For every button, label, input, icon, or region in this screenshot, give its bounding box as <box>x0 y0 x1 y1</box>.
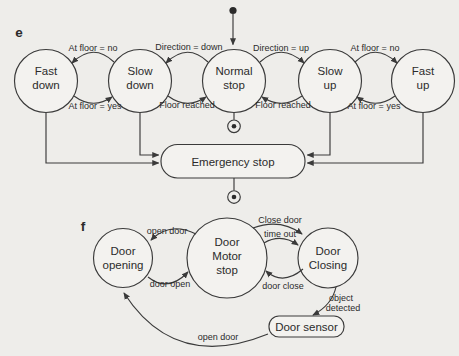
state-door-closing-circle <box>298 228 358 288</box>
transition-door-close <box>266 269 303 278</box>
state-door-opening: Door opening <box>94 229 153 288</box>
transition-door-sensor-door-opening <box>124 293 268 346</box>
state-door-motor-stop-line3: stop <box>216 264 238 276</box>
diagram-f: f Door opening Door Motor stop Door Clos… <box>81 215 361 346</box>
state-door-opening-line1: Door <box>111 245 136 257</box>
state-normal-stop-line2: stop <box>223 79 245 91</box>
state-slow-up-line2: up <box>324 79 337 91</box>
initial-state-icon <box>229 7 236 14</box>
state-fast-down-line2: down <box>32 79 60 91</box>
state-door-motor-stop: Door Motor stop <box>187 218 267 298</box>
transition-slow-up-fast-up <box>355 52 397 63</box>
state-door-motor-stop-line1: Door <box>215 236 240 248</box>
label-direction-down: Direction = down <box>155 42 222 52</box>
label-object-detected-line2: detected <box>326 303 361 313</box>
final-state-dot <box>232 195 237 200</box>
label-at-floor-yes-left: At floor = yes <box>69 101 122 111</box>
state-fast-up: Fast up <box>392 50 455 113</box>
label-object-detected-line1: object <box>329 293 354 303</box>
state-door-closing-line2: Closing <box>309 259 347 271</box>
label-floor-reached-right: Floor reached <box>255 100 311 110</box>
state-normal-stop-line1: Normal <box>215 65 252 77</box>
label-direction-up: Direction = up <box>253 43 309 53</box>
state-door-motor-stop-line2: Motor <box>212 250 242 262</box>
final-state-emergency <box>228 178 241 203</box>
state-door-sensor-label: Door sensor <box>275 321 338 333</box>
transition-time-out <box>264 238 298 245</box>
final-state-normal-stop <box>228 113 241 133</box>
state-emergency-stop-label: Emergency stop <box>191 156 274 168</box>
figure-page: e Fast down Slow down Normal stop Slow u… <box>0 0 459 356</box>
label-at-floor-no-right: At floor = no <box>351 43 400 53</box>
label-close-door: Close door <box>258 215 302 225</box>
transition-slow-down-emergency <box>140 113 159 155</box>
state-door-closing-line1: Door <box>316 245 341 257</box>
transition-normal-stop-slow-up <box>260 52 304 63</box>
label-door-open: door open <box>150 279 191 289</box>
state-slow-up-line1: Slow <box>318 65 344 77</box>
state-door-opening-circle <box>94 229 153 288</box>
transition-normal-stop-slow-down <box>166 52 208 63</box>
diagram-f-label: f <box>81 219 86 234</box>
label-at-floor-no-left: At floor = no <box>69 43 118 53</box>
diagram-e: e Fast down Slow down Normal stop Slow u… <box>15 7 455 203</box>
label-at-floor-yes-right: At floor = yes <box>348 101 401 111</box>
label-open-door-bottom: open door <box>198 332 239 342</box>
state-fast-down-line1: Fast <box>35 65 58 77</box>
state-emergency-stop: Emergency stop <box>161 145 305 179</box>
transition-slow-up-emergency <box>308 113 331 155</box>
state-slow-down-line2: down <box>126 79 154 91</box>
diagram-e-label: e <box>15 25 23 40</box>
state-door-opening-line2: opening <box>103 259 144 271</box>
state-fast-up-line1: Fast <box>412 65 435 77</box>
state-fast-up-line2: up <box>417 79 430 91</box>
label-door-close: door close <box>262 281 304 291</box>
label-open-door-top: open door <box>147 226 188 236</box>
state-slow-down-line1: Slow <box>128 65 154 77</box>
final-state-dot <box>232 124 237 129</box>
label-time-out: time out <box>264 229 297 239</box>
transition-slow-down-fast-down <box>72 52 114 63</box>
state-diagrams-svg: e Fast down Slow down Normal stop Slow u… <box>0 0 459 356</box>
label-floor-reached-left: Floor reached <box>159 100 215 110</box>
state-door-closing: Door Closing <box>298 228 358 288</box>
state-door-sensor: Door sensor <box>269 316 344 337</box>
